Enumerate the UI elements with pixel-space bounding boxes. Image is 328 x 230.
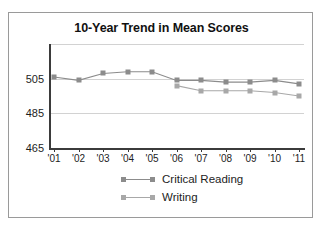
x-axis-tick-label: '11 — [293, 153, 305, 164]
data-point-marker — [174, 83, 179, 88]
data-point-marker — [297, 94, 302, 99]
data-point-marker — [297, 81, 302, 86]
legend-label: Critical Reading — [162, 173, 243, 185]
data-point-marker — [223, 80, 228, 85]
series-lines — [49, 44, 304, 148]
legend-label: Writing — [162, 191, 198, 203]
legend-item[interactable]: Writing — [121, 191, 314, 203]
x-axis-tick-label: '07 — [194, 153, 207, 164]
x-axis-tick-label: '01 — [47, 153, 60, 164]
data-point-marker — [150, 69, 155, 74]
data-point-marker — [125, 69, 130, 74]
legend-item[interactable]: Critical Reading — [121, 173, 314, 185]
plot-area: 465485505 '01'02'03'04'05'06'07'08'09'10… — [49, 44, 304, 148]
x-axis-tick-label: '04 — [121, 153, 134, 164]
chart-title: 10-Year Trend in Mean Scores — [9, 21, 314, 35]
legend-swatch-icon — [121, 175, 155, 184]
data-point-marker — [52, 74, 57, 79]
y-axis-tick-label: 485 — [26, 107, 44, 119]
data-point-marker — [76, 78, 81, 83]
x-axis-line — [49, 148, 305, 150]
data-point-marker — [101, 71, 106, 76]
x-axis-tick-label: '02 — [72, 153, 85, 164]
x-axis-tick-label: '10 — [268, 153, 281, 164]
chart-legend: Critical ReadingWriting — [9, 173, 314, 209]
data-point-marker — [199, 78, 204, 83]
y-axis-tick-label: 505 — [26, 73, 44, 85]
x-axis-tick-label: '05 — [145, 153, 158, 164]
chart-card: 10-Year Trend in Mean Scores 465485505 '… — [8, 12, 313, 218]
data-point-marker — [272, 90, 277, 95]
data-point-marker — [248, 88, 253, 93]
data-point-marker — [199, 88, 204, 93]
series-line — [177, 86, 300, 96]
x-axis-tick-label: '06 — [170, 153, 183, 164]
data-point-marker — [272, 78, 277, 83]
y-axis-line — [49, 44, 51, 149]
x-axis-tick-label: '09 — [243, 153, 256, 164]
x-axis-tick-label: '03 — [96, 153, 109, 164]
y-axis-tick-label: 465 — [26, 142, 44, 154]
data-point-marker — [223, 88, 228, 93]
data-point-marker — [248, 80, 253, 85]
x-axis-tick-label: '08 — [219, 153, 232, 164]
legend-swatch-icon — [121, 193, 155, 202]
